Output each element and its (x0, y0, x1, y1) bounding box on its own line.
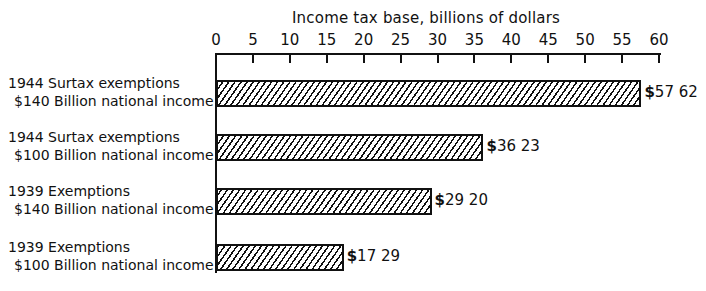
x-tick-label: 30 (428, 31, 447, 49)
x-tick-label: 50 (576, 31, 595, 49)
category-label: 1944 Surtax exemptions$100 Billion natio… (0, 128, 211, 164)
bar-value-label: $36 23 (486, 137, 539, 155)
bar (216, 244, 344, 271)
category-label: 1939 Exemptions$100 Billion national inc… (0, 238, 211, 274)
x-tick-label: 25 (391, 31, 410, 49)
x-tick-label: 55 (613, 31, 632, 49)
bar-value-label: $57 62 (644, 83, 697, 101)
x-tick-label: 15 (317, 31, 336, 49)
x-tick-label: 20 (354, 31, 373, 49)
bar-value-label: $29 20 (435, 191, 488, 209)
category-label: 1939 Exemptions$140 Billion national inc… (0, 182, 211, 218)
x-tick-label: 40 (502, 31, 521, 49)
x-axis-line (216, 53, 661, 55)
x-axis-title: Income tax base, billions of dollars (292, 9, 560, 27)
bar (216, 188, 432, 215)
x-tick-label: 0 (211, 31, 221, 49)
bar-value-label: $17 29 (347, 247, 400, 265)
income-tax-base-chart: Income tax base, billions of dollars 051… (0, 0, 706, 291)
bar (216, 80, 641, 107)
x-tick-label: 60 (649, 31, 668, 49)
x-tick-label: 10 (280, 31, 299, 49)
x-tick-label: 35 (465, 31, 484, 49)
x-tick-label: 45 (539, 31, 558, 49)
bar (216, 134, 483, 161)
x-tick-label: 5 (248, 31, 258, 49)
category-label: 1944 Surtax exemptions$140 Billion natio… (0, 74, 211, 110)
